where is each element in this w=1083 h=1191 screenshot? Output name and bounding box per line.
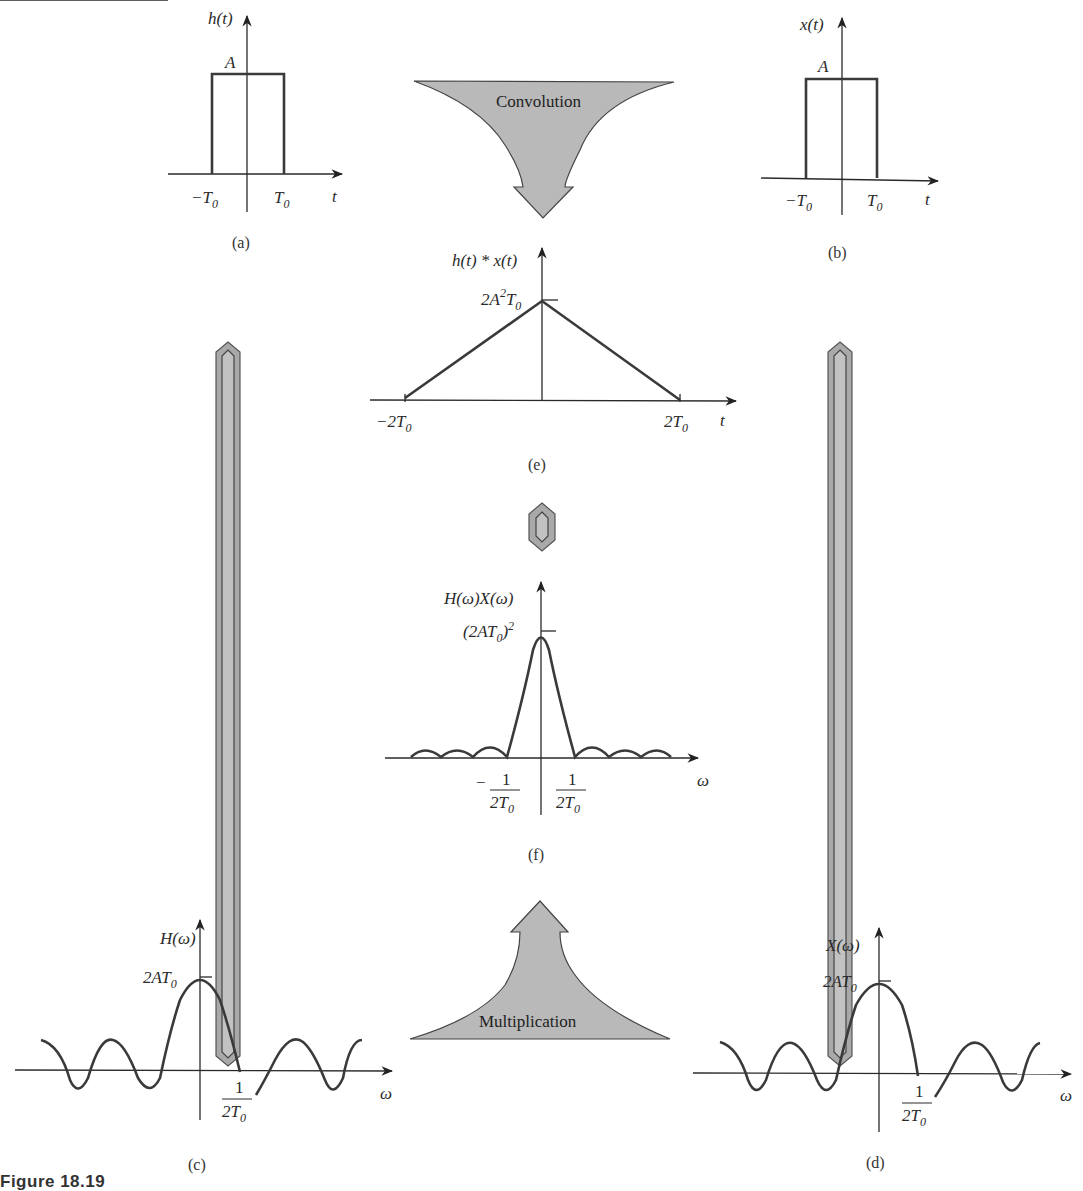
xlabel: ω [1060,1086,1072,1105]
ylabel: X(ω) [825,936,860,955]
figure-caption: Figure 18.19 [0,1172,105,1191]
xlabel: t [332,187,338,206]
svg-text:1: 1 [568,770,577,789]
sinc-curve-right [935,1043,1040,1097]
xlabel: ω [380,1084,392,1103]
peak-label: 2AT0 [143,968,177,991]
xlabel: t [720,411,726,430]
tick-neg-2T0: −2T0 [376,412,411,435]
multiplication-arrow: Multiplication [410,901,670,1039]
tick-neg-T0: −T0 [785,191,812,214]
panel-label-b: (b) [828,244,847,262]
ylabel: H(ω)X(ω) [443,589,514,608]
svg-text:−: − [476,773,486,792]
sinc-curve-left [41,980,240,1089]
panel-label-d: (d) [866,1154,885,1172]
panel-c-H-spectrum: H(ω) 2AT0 1 2T0 ω (c) [15,920,392,1174]
panel-b-rect-pulse-x: x(t) A −T0 T0 t (b) [761,15,938,262]
panel-label-e: (e) [528,456,546,474]
x-axis [693,1073,1071,1074]
panel-e-convolution-result: h(t) * x(t) 2A2T0 −2T0 2T0 t (e) [370,248,736,474]
x-axis [370,400,736,401]
tick-1-over-2T0: 1 2T0 [902,1082,932,1129]
sinc-curve-right [256,1039,362,1095]
tick-pos-T0: T0 [867,191,882,214]
convolution-arrow: Convolution [414,81,674,218]
convolution-label: Convolution [496,92,582,111]
ylabel: h(t) [208,9,233,28]
x-axis [15,1070,392,1071]
fourier-pair-bar-right [828,342,852,1066]
panel-label-f: (f) [528,846,544,864]
panel-d-X-spectrum: X(ω) 2AT0 1 2T0 ω (d) [693,928,1072,1172]
panel-a-rect-pulse-h: h(t) A −T0 T0 t (a) [0,0,342,252]
tick-neg-1-over-2T0: − 1 2T0 [476,770,520,816]
tick-neg-T0: −T0 [191,188,218,211]
x-axis [761,178,938,181]
tick-pos-1-over-2T0: 1 2T0 [556,770,586,816]
panel-label-c: (c) [188,1156,206,1174]
rect-pulse-curve [212,74,284,174]
tick-pos-2T0: 2T0 [664,412,688,435]
ylabel: h(t) * x(t) [452,251,517,270]
svg-text:2T0: 2T0 [222,1102,246,1125]
multiplication-label: Multiplication [479,1012,577,1031]
svg-text:1: 1 [502,770,511,789]
tick-1-over-2T0: 1 2T0 [222,1078,252,1125]
svg-text:2T0: 2T0 [556,793,580,816]
panel-f-product-spectrum: H(ω)X(ω) (2AT0)2 − 1 2T0 1 2T0 ω (f) [385,582,709,864]
svg-text:2T0: 2T0 [490,793,514,816]
amplitude-label: A [224,53,236,72]
fourier-pair-bar-center [529,503,555,551]
svg-text:1: 1 [915,1082,924,1101]
peak-label: (2AT0)2 [463,619,514,645]
xlabel: t [925,190,931,209]
ylabel: x(t) [799,15,824,34]
ylabel: H(ω) [159,929,196,948]
svg-text:1: 1 [235,1078,244,1097]
svg-text:2T0: 2T0 [902,1106,926,1129]
amplitude-label: A [817,57,829,76]
xlabel: ω [697,771,709,790]
peak-label: 2A2T0 [481,286,521,313]
tick-pos-T0: T0 [274,188,289,211]
panel-label-a: (a) [232,234,250,252]
fourier-pair-bar-left [216,342,240,1066]
